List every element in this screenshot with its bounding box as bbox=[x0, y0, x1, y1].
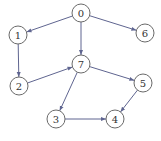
node-label: 6 bbox=[142, 28, 148, 39]
edge-7-to-3 bbox=[60, 72, 78, 111]
node-label: 4 bbox=[112, 114, 118, 125]
node-7: 7 bbox=[72, 55, 90, 73]
figure-caption bbox=[40, 132, 130, 141]
node-label: 1 bbox=[15, 30, 21, 41]
node-6: 6 bbox=[136, 24, 154, 42]
node-label: 7 bbox=[78, 59, 84, 70]
node-label: 5 bbox=[140, 78, 146, 89]
node-3: 3 bbox=[47, 110, 65, 128]
edge-0-to-1 bbox=[27, 16, 73, 32]
node-2: 2 bbox=[10, 77, 28, 95]
node-4: 4 bbox=[106, 110, 124, 128]
node-label: 2 bbox=[16, 81, 22, 92]
node-1: 1 bbox=[9, 26, 27, 44]
edge-7-to-5 bbox=[90, 67, 135, 81]
directed-graph: 01672534 bbox=[0, 0, 161, 141]
edge-0-to-6 bbox=[90, 16, 137, 31]
edge-5-to-4 bbox=[121, 90, 138, 112]
edge-2-to-7 bbox=[28, 67, 73, 83]
node-label: 3 bbox=[53, 114, 59, 125]
node-label: 0 bbox=[78, 8, 84, 19]
edge-1-to-2 bbox=[18, 44, 19, 77]
node-5: 5 bbox=[134, 74, 152, 92]
node-0: 0 bbox=[72, 4, 90, 22]
